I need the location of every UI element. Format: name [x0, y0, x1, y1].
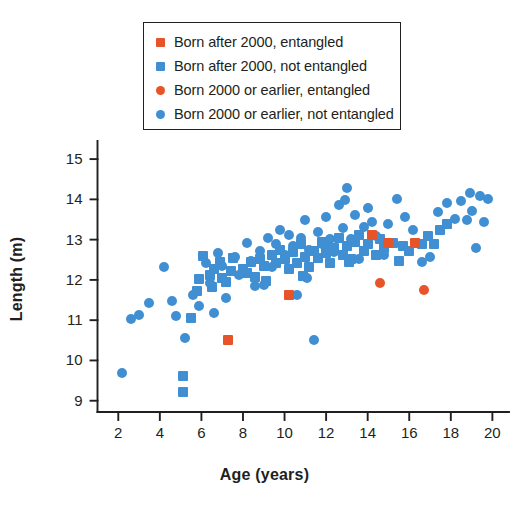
data-point-after2000_not_entangled [178, 371, 188, 381]
data-point-after2000_entangled [367, 230, 377, 240]
data-point-pre2000_not_entangled [230, 252, 240, 262]
x-tick-label: 18 [438, 424, 464, 441]
x-tick-label: 12 [313, 424, 339, 441]
data-point-pre2000_not_entangled [288, 241, 298, 251]
legend-item-label: Born after 2000, not entangled [174, 59, 367, 74]
data-point-after2000_entangled [223, 335, 233, 345]
data-point-after2000_not_entangled [363, 239, 373, 249]
x-tick-label: 16 [396, 424, 422, 441]
data-point-pre2000_not_entangled [408, 225, 418, 235]
data-point-after2000_not_entangled [186, 313, 196, 323]
data-point-pre2000_not_entangled [483, 194, 493, 204]
y-tick-label: 15 [53, 150, 83, 167]
data-point-after2000_entangled [410, 238, 420, 248]
data-point-pre2000_not_entangled [246, 256, 256, 266]
legend-item[interactable]: Born after 2000, not entangled [156, 54, 400, 78]
data-point-pre2000_not_entangled [209, 308, 219, 318]
y-tick-label: 13 [53, 231, 83, 248]
data-point-pre2000_not_entangled [234, 270, 244, 280]
legend: Born after 2000, entangled Born after 20… [143, 22, 401, 130]
data-point-pre2000_not_entangled [309, 335, 319, 345]
data-point-pre2000_not_entangled [479, 217, 489, 227]
data-point-pre2000_not_entangled [159, 262, 169, 272]
data-point-pre2000_not_entangled [465, 188, 475, 198]
data-point-pre2000_not_entangled [259, 280, 269, 290]
legend-item-label: Born after 2000, entangled [174, 35, 343, 50]
data-point-after2000_entangled [284, 290, 294, 300]
y-tick-label: 14 [53, 190, 83, 207]
legend-marker-circle-orange-icon [156, 86, 165, 95]
x-tick-label: 2 [105, 424, 131, 441]
legend-marker-square-blue-icon [156, 62, 165, 71]
x-tick-label: 4 [147, 424, 173, 441]
data-point-after2000_not_entangled [429, 239, 439, 249]
data-point-pre2000_not_entangled [213, 248, 223, 258]
y-tick-label: 9 [53, 392, 83, 409]
data-point-pre2000_not_entangled [255, 246, 265, 256]
data-point-pre2000_not_entangled [280, 250, 290, 260]
data-point-pre2000_not_entangled [363, 203, 373, 213]
data-point-pre2000_not_entangled [350, 210, 360, 220]
data-point-pre2000_not_entangled [367, 217, 377, 227]
data-point-pre2000_not_entangled [346, 234, 356, 244]
data-point-pre2000_not_entangled [450, 214, 460, 224]
legend-item[interactable]: Born after 2000, entangled [156, 30, 400, 54]
data-point-pre2000_not_entangled [340, 195, 350, 205]
data-point-pre2000_not_entangled [425, 252, 435, 262]
data-point-pre2000_not_entangled [217, 261, 227, 271]
x-tick-label: 14 [355, 424, 381, 441]
x-tick-label: 8 [230, 424, 256, 441]
data-point-pre2000_not_entangled [467, 206, 477, 216]
y-tick-label: 12 [53, 271, 83, 288]
data-point-pre2000_entangled [419, 285, 429, 295]
x-tick-label: 6 [188, 424, 214, 441]
data-point-pre2000_not_entangled [392, 194, 402, 204]
x-axis-title: Age (years) [0, 466, 529, 484]
y-tick-label: 11 [53, 311, 83, 328]
y-axis-title: Length (m) [8, 199, 26, 359]
data-point-after2000_entangled [383, 238, 393, 248]
data-point-pre2000_not_entangled [242, 238, 252, 248]
y-tick-label: 10 [53, 351, 83, 368]
legend-item[interactable]: Born 2000 or earlier, not entangled [156, 102, 400, 126]
data-point-after2000_not_entangled [194, 274, 204, 284]
data-point-pre2000_not_entangled [296, 233, 306, 243]
data-point-pre2000_not_entangled [205, 278, 215, 288]
data-point-pre2000_not_entangled [342, 183, 352, 193]
data-point-after2000_not_entangled [178, 387, 188, 397]
legend-item-label: Born 2000 or earlier, not entangled [174, 107, 394, 122]
legend-item[interactable]: Born 2000 or earlier, entangled [156, 78, 400, 102]
data-point-pre2000_not_entangled [284, 230, 294, 240]
data-point-after2000_not_entangled [325, 258, 335, 268]
data-point-after2000_not_entangled [344, 257, 354, 267]
legend-marker-square-orange-icon [156, 38, 165, 47]
x-tick-label: 20 [479, 424, 505, 441]
data-point-after2000_not_entangled [221, 277, 231, 287]
x-tick-label: 10 [272, 424, 298, 441]
scatter-plot-figure: 9101112131415 2468101214161820 Born afte… [0, 0, 529, 523]
data-point-pre2000_not_entangled [442, 198, 452, 208]
data-point-pre2000_not_entangled [201, 258, 211, 268]
legend-item-label: Born 2000 or earlier, entangled [174, 83, 370, 98]
legend-marker-circle-blue-icon [156, 110, 165, 119]
data-point-after2000_not_entangled [394, 256, 404, 266]
